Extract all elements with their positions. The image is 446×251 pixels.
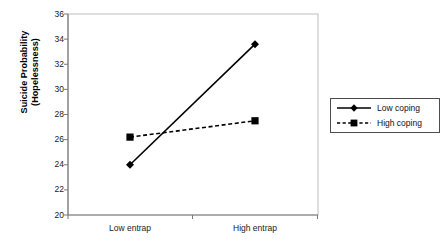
y-axis-tick-label: 32	[40, 60, 64, 69]
y-axis-tick-label: 20	[40, 211, 64, 220]
legend-swatch-low-coping	[336, 102, 372, 114]
legend-label-low-coping: Low coping	[377, 104, 420, 113]
legend-item-low-coping[interactable]: Low coping	[336, 101, 434, 116]
y-axis-tick-label: 22	[40, 185, 64, 194]
x-axis-tick-label: Low entrap	[109, 224, 151, 233]
data-point-marker	[251, 117, 258, 124]
y-axis-tick-label: 24	[40, 160, 64, 169]
y-axis-tick-label: 36	[40, 10, 64, 19]
y-axis-tick-label: 28	[40, 110, 64, 119]
x-axis-ticks	[68, 215, 318, 219]
legend-label-high-coping: High coping	[377, 119, 422, 128]
legend-swatch-high-coping	[336, 117, 372, 129]
plot-frame	[68, 14, 318, 215]
data-point-marker	[126, 134, 133, 141]
x-axis-tick-label: High entrap	[233, 224, 277, 233]
y-axis-tick-label: 26	[40, 135, 64, 144]
y-axis-tick-labels: 202224262830323436	[38, 0, 64, 251]
chart-legend: Low coping High coping	[330, 98, 440, 133]
y-axis-tick-label: 34	[40, 35, 64, 44]
interaction-line-chart: Suicide Probability (Hopelessness) 20222…	[0, 0, 446, 251]
y-axis-tick-label: 30	[40, 85, 64, 94]
axes-frame	[68, 14, 318, 215]
legend-item-high-coping[interactable]: High coping	[336, 116, 434, 131]
y-axis-title-line-1: Suicide Probability	[19, 31, 30, 114]
